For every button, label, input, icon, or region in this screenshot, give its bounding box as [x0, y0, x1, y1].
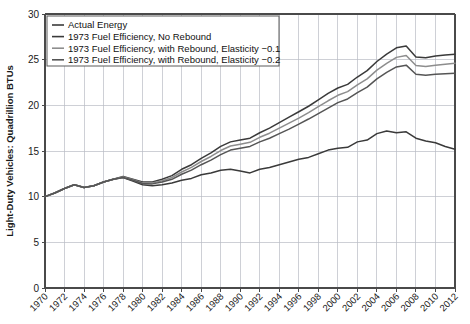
x-tick-label: 1994 [261, 291, 284, 314]
x-tick-label: 1974 [66, 291, 89, 314]
x-tick-label: 1982 [144, 291, 167, 314]
y-tick-label: 0 [33, 283, 39, 294]
x-tick-label: 1988 [203, 291, 226, 314]
x-tick-label: 1972 [47, 291, 70, 314]
y-tick-label: 25 [28, 54, 40, 65]
x-tick-label: 2012 [437, 291, 460, 314]
chart-legend: Actual Energy1973 Fuel Efficiency, No Re… [47, 16, 280, 66]
y-tick-label: 5 [33, 237, 39, 248]
x-tick-label: 1986 [183, 291, 206, 314]
series-line-2 [45, 56, 455, 197]
legend-label-2: 1973 Fuel Efficiency, with Rebound, Elas… [68, 43, 280, 54]
xtick-labels: 1970197219741976197819801982198419861988… [27, 288, 460, 313]
series-line-3 [45, 65, 455, 197]
x-tick-label: 1992 [242, 291, 265, 314]
y-tick-label: 15 [28, 146, 40, 157]
x-tick-label: 1990 [222, 291, 245, 314]
x-tick-label: 2006 [379, 291, 402, 314]
y-tick-label: 10 [28, 191, 40, 202]
series-line-0 [45, 131, 455, 197]
y-tick-label: 30 [28, 9, 40, 20]
x-tick-label: 1984 [164, 291, 187, 314]
ytick-labels: 051015202530 [28, 9, 45, 294]
x-tick-label: 1998 [301, 291, 324, 314]
legend-label-1: 1973 Fuel Efficiency, No Rebound [68, 31, 211, 42]
x-tick-label: 1996 [281, 291, 304, 314]
series-layer [45, 46, 455, 197]
chart-container: 051015202530 197019721974197619781980198… [0, 0, 470, 324]
x-tick-label: 1980 [125, 291, 148, 314]
legend-label-0: Actual Energy [68, 19, 127, 30]
x-tick-label: 2002 [340, 291, 363, 314]
x-tick-label: 1970 [27, 291, 50, 314]
x-tick-label: 2004 [359, 291, 382, 314]
x-tick-label: 2008 [398, 291, 421, 314]
legend-label-3: 1973 Fuel Efficiency, with Rebound, Elas… [68, 54, 280, 65]
line-chart: 051015202530 197019721974197619781980198… [0, 0, 470, 324]
x-tick-label: 2010 [418, 291, 441, 314]
x-tick-label: 1978 [105, 291, 128, 314]
x-tick-label: 2000 [320, 291, 343, 314]
y-tick-label: 20 [28, 100, 40, 111]
y-axis-title-text: Light-Duty Vehicles: Quadrillion BTUs [4, 65, 15, 237]
x-tick-label: 1976 [86, 291, 109, 314]
y-axis-title: Light-Duty Vehicles: Quadrillion BTUs [4, 65, 15, 237]
